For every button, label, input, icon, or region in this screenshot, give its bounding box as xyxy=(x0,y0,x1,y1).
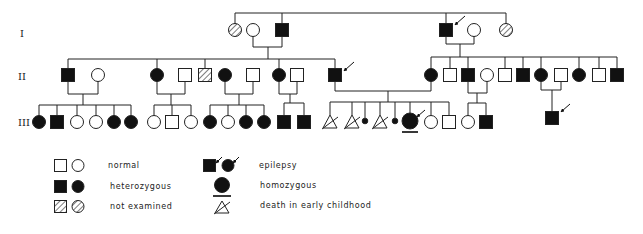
individual-III-12 xyxy=(240,116,253,129)
individual-II-19 xyxy=(573,69,586,82)
individual-II-9 xyxy=(291,69,304,82)
legend-circle-het xyxy=(72,181,84,193)
individual-II-8 xyxy=(273,69,286,82)
legend-early-death xyxy=(214,201,230,214)
generation-2 xyxy=(62,62,624,82)
legend-circle-normal xyxy=(72,160,84,172)
individual-II-15 xyxy=(499,69,512,82)
legend-label-not-examined: not examined xyxy=(110,202,172,211)
individual-III-25 xyxy=(480,116,493,129)
individual-III-18 xyxy=(362,118,368,124)
individual-II-17 xyxy=(535,69,548,82)
individual-II-5 xyxy=(199,69,212,82)
legend-square-epilepsy xyxy=(204,160,216,172)
proband-arrow-icon xyxy=(456,16,465,24)
individual-III-22 xyxy=(425,116,438,129)
individual-III-17 xyxy=(344,115,360,129)
legend-square-het xyxy=(55,181,67,193)
individual-III-15 xyxy=(298,116,311,129)
pedigree-chart: I II III xyxy=(0,0,643,234)
individual-III-20 xyxy=(392,118,398,124)
proband-arrow-icon xyxy=(345,62,354,70)
generation-1 xyxy=(229,16,513,37)
individual-III-21 xyxy=(402,113,418,129)
individual-III-9 xyxy=(185,116,198,129)
individual-III-10 xyxy=(204,116,217,129)
individual-III-24 xyxy=(462,116,475,129)
individual-II-10 xyxy=(329,69,342,82)
individual-III-11 xyxy=(222,116,235,129)
individual-II-1 xyxy=(62,69,75,82)
individual-III-16 xyxy=(322,115,338,129)
individual-II-11 xyxy=(425,69,438,82)
individual-I-2 xyxy=(247,24,260,37)
individual-III-14 xyxy=(278,116,291,129)
generation-label-2: II xyxy=(18,71,26,82)
legend-circle-epilepsy xyxy=(222,160,234,172)
legend-label-heterozygous: heterozygous xyxy=(110,182,171,191)
individual-III-13 xyxy=(258,116,271,129)
legend-label-early-death: death in early childhood xyxy=(260,201,371,210)
legend-circle-ne xyxy=(72,201,84,213)
individual-II-2 xyxy=(92,69,105,82)
individual-III-1 xyxy=(33,116,46,129)
individual-III-2 xyxy=(51,116,64,129)
individual-III-3 xyxy=(71,116,84,129)
individual-III-7 xyxy=(148,116,161,129)
legend-square-normal xyxy=(55,160,67,172)
individual-II-12 xyxy=(444,69,457,82)
generation-label-3: III xyxy=(18,117,30,128)
legend-label-epilepsy: epilepsy xyxy=(259,161,297,170)
legend-label-homozygous: homozygous xyxy=(260,181,317,190)
legend-square-ne xyxy=(55,201,67,213)
individual-II-18 xyxy=(555,69,568,82)
individual-III-26 xyxy=(546,112,559,125)
individual-II-13 xyxy=(462,69,475,82)
proband-arrow-icon xyxy=(562,104,570,111)
individual-II-4 xyxy=(179,69,192,82)
individual-I-1 xyxy=(229,24,242,37)
individual-II-14 xyxy=(481,69,494,82)
individual-III-23 xyxy=(443,116,456,129)
individual-III-8 xyxy=(166,116,179,129)
legend-label-normal: normal xyxy=(108,161,140,170)
legend-labels: normal heterozygous not examined epileps… xyxy=(108,161,371,211)
individual-I-5 xyxy=(468,24,481,37)
individual-I-4 xyxy=(440,24,453,37)
individual-I-6 xyxy=(500,24,513,37)
individual-II-20 xyxy=(593,69,606,82)
individual-III-19 xyxy=(372,115,388,129)
individual-III-4 xyxy=(90,116,103,129)
individual-I-3 xyxy=(276,24,289,37)
legend-arrow-icon xyxy=(217,157,222,162)
individual-II-16 xyxy=(517,69,530,82)
individual-III-6 xyxy=(125,116,138,129)
generation-3 xyxy=(33,104,571,132)
legend-arrow-icon xyxy=(234,157,239,162)
individual-III-5 xyxy=(108,116,121,129)
proband-arrow-icon xyxy=(418,110,425,116)
pedigree-lines xyxy=(39,13,617,118)
legend-circle-homozygous xyxy=(215,178,230,193)
individual-II-6 xyxy=(219,69,232,82)
generation-label-1: I xyxy=(20,28,24,39)
individual-II-3 xyxy=(151,69,164,82)
individual-II-21 xyxy=(611,69,624,82)
individual-II-7 xyxy=(247,69,260,82)
